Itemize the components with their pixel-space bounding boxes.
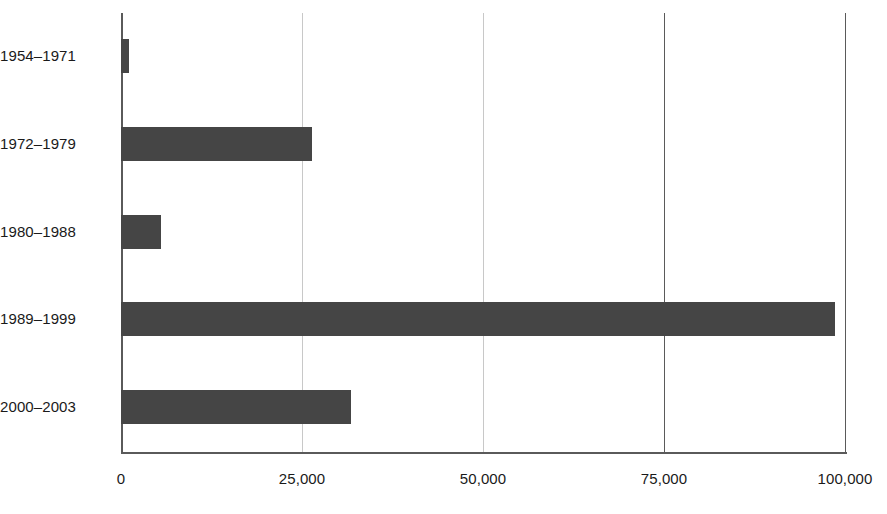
- x-tick-label: 25,000: [279, 470, 325, 487]
- bar: [121, 390, 351, 424]
- category-label: 1972–1979: [0, 135, 110, 152]
- bar: [121, 39, 129, 73]
- bar: [121, 215, 161, 249]
- category-label: 1989–1999: [0, 310, 110, 327]
- x-tick-label: 75,000: [641, 470, 687, 487]
- bar: [121, 127, 312, 161]
- bar-row: [121, 13, 845, 101]
- bar-row: [121, 101, 845, 189]
- category-label: 1954–1971: [0, 47, 110, 64]
- category-label: 1980–1988: [0, 223, 110, 240]
- bar-row: [121, 364, 845, 452]
- bar-chart: 1954–19711972–19791980–19881989–19992000…: [0, 0, 887, 514]
- bar: [121, 302, 835, 336]
- bar-row: [121, 276, 845, 364]
- x-tick-label: 0: [117, 470, 125, 487]
- x-tick-label: 100,000: [818, 470, 873, 487]
- gridline-100000: [845, 13, 846, 452]
- x-axis-line: [121, 452, 847, 454]
- bar-row: [121, 189, 845, 277]
- category-label: 2000–2003: [0, 398, 110, 415]
- x-tick-label: 50,000: [460, 470, 506, 487]
